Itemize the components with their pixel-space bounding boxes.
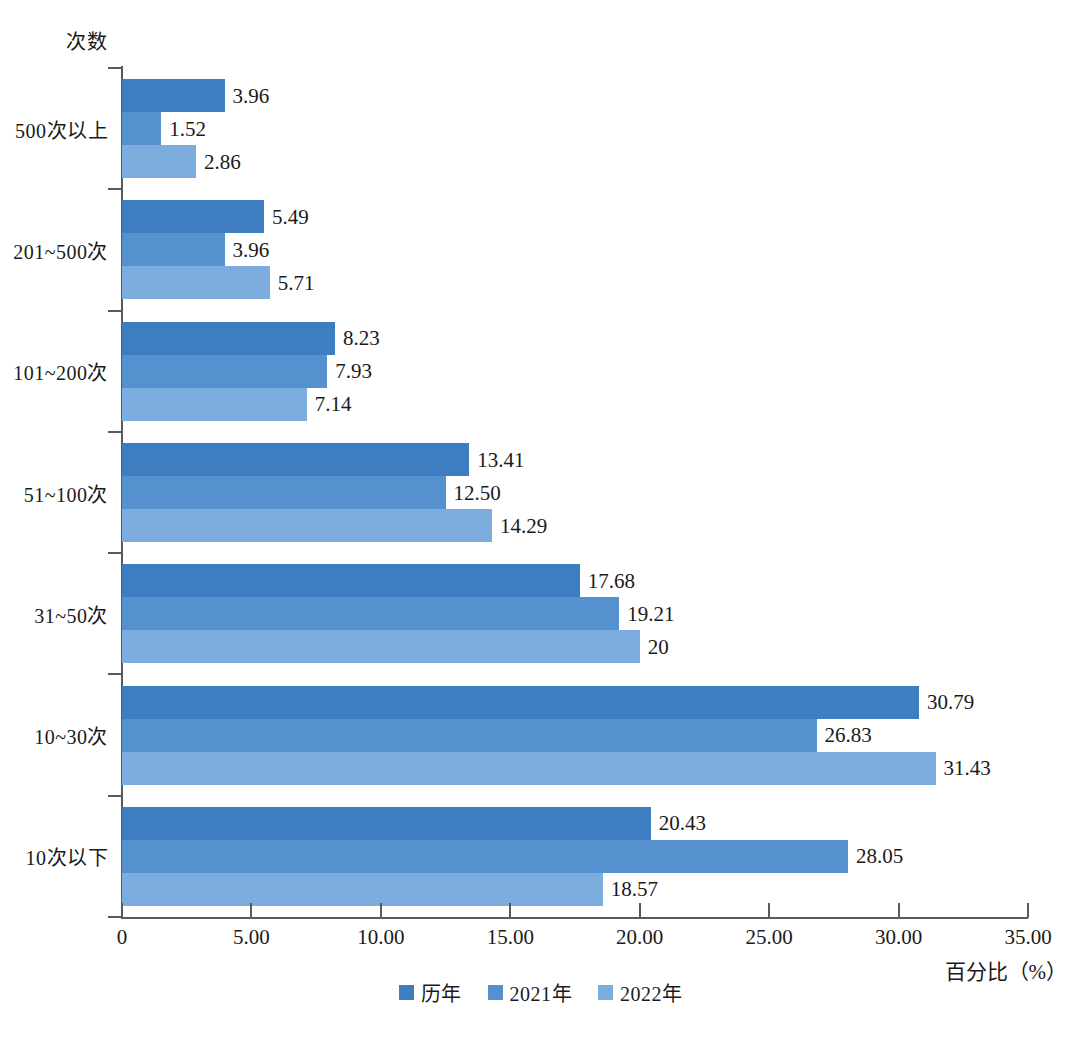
category-label: 31~50次 xyxy=(0,599,108,628)
x-axis-tick xyxy=(898,903,900,918)
x-axis-line xyxy=(121,917,1028,919)
category-label: 201~500次 xyxy=(0,235,108,264)
x-axis-tick xyxy=(1027,903,1029,918)
x-axis-tick-label: 0 xyxy=(117,925,128,950)
bar-value-label: 30.79 xyxy=(927,690,974,715)
x-axis-tick-label: 10.00 xyxy=(357,925,404,950)
bar-value-label: 8.23 xyxy=(343,326,380,351)
bar xyxy=(122,873,603,906)
x-axis-tick xyxy=(768,903,770,918)
horizontal-bar-chart: 次数 500次以上201~500次101~200次51~100次31~50次10… xyxy=(0,0,1081,1039)
y-axis-tick xyxy=(108,310,122,312)
bar-value-label: 1.52 xyxy=(169,116,206,141)
bar-value-label: 20 xyxy=(648,634,669,659)
bar-value-label: 20.43 xyxy=(659,811,706,836)
legend-item[interactable]: 2021年 xyxy=(488,978,573,1007)
bar xyxy=(122,200,264,233)
bar xyxy=(122,476,446,509)
bar xyxy=(122,509,492,542)
x-axis-tick-label: 5.00 xyxy=(233,925,270,950)
y-axis-tick xyxy=(108,673,122,675)
bar-value-label: 13.41 xyxy=(477,447,524,472)
x-axis-tick-label: 15.00 xyxy=(487,925,534,950)
y-axis-tick xyxy=(108,552,122,554)
legend-swatch-icon xyxy=(488,985,503,1000)
x-axis-tick xyxy=(121,903,123,918)
bar xyxy=(122,840,848,873)
x-axis-tick xyxy=(380,903,382,918)
x-axis-tick xyxy=(509,903,511,918)
bar-value-label: 28.05 xyxy=(856,844,903,869)
bar xyxy=(122,443,469,476)
x-axis-tick-label: 25.00 xyxy=(746,925,793,950)
bar-value-label: 3.96 xyxy=(233,237,270,262)
bar xyxy=(122,752,936,785)
legend-label: 历年 xyxy=(421,978,462,1007)
bar-value-label: 31.43 xyxy=(944,756,991,781)
legend-swatch-icon xyxy=(399,985,414,1000)
x-axis-tick xyxy=(250,903,252,918)
bar-value-label: 12.50 xyxy=(454,480,501,505)
x-axis-tick-label: 20.00 xyxy=(616,925,663,950)
bar xyxy=(122,112,161,145)
y-axis-tick xyxy=(108,67,122,69)
bar xyxy=(122,719,817,752)
bar-value-label: 7.14 xyxy=(315,392,352,417)
bar xyxy=(122,686,919,719)
legend-swatch-icon xyxy=(598,985,613,1000)
bar-value-label: 18.57 xyxy=(611,877,658,902)
x-axis-tick xyxy=(639,903,641,918)
y-axis-tick xyxy=(108,916,122,918)
x-axis-tick-label: 35.00 xyxy=(1004,925,1051,950)
bar xyxy=(122,630,640,663)
bar xyxy=(122,564,580,597)
bar-value-label: 3.96 xyxy=(233,83,270,108)
bar-value-label: 2.86 xyxy=(204,149,241,174)
legend-item[interactable]: 历年 xyxy=(399,978,462,1007)
bar-value-label: 26.83 xyxy=(825,723,872,748)
y-axis-title: 次数 xyxy=(66,26,108,55)
bar-value-label: 5.49 xyxy=(272,204,309,229)
category-label: 500次以上 xyxy=(0,114,108,143)
chart-legend: 历年2021年2022年 xyxy=(0,978,1081,1007)
bar xyxy=(122,388,307,421)
bar xyxy=(122,266,270,299)
bar xyxy=(122,807,651,840)
category-label: 10~30次 xyxy=(0,721,108,750)
legend-label: 2021年 xyxy=(510,978,573,1007)
bar xyxy=(122,322,335,355)
bar xyxy=(122,355,327,388)
bar-value-label: 19.21 xyxy=(627,601,674,626)
legend-label: 2022年 xyxy=(620,978,683,1007)
y-axis-tick xyxy=(108,795,122,797)
bar xyxy=(122,79,225,112)
bar xyxy=(122,597,619,630)
bar-value-label: 14.29 xyxy=(500,513,547,538)
bar-value-label: 5.71 xyxy=(278,270,315,295)
category-label: 101~200次 xyxy=(0,357,108,386)
x-axis-tick-label: 30.00 xyxy=(875,925,922,950)
category-label: 51~100次 xyxy=(0,478,108,507)
bar xyxy=(122,145,196,178)
bar xyxy=(122,233,225,266)
bar-value-label: 7.93 xyxy=(335,359,372,384)
legend-item[interactable]: 2022年 xyxy=(598,978,683,1007)
y-axis-tick xyxy=(108,188,122,190)
category-label: 10次以下 xyxy=(0,842,108,871)
y-axis-tick xyxy=(108,431,122,433)
bar-value-label: 17.68 xyxy=(588,568,635,593)
